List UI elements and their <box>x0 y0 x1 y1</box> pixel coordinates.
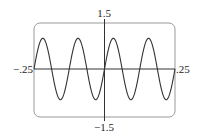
y-tick-label-max: 1.5 <box>97 7 111 19</box>
y-tick-label-min: −1.5 <box>94 121 114 133</box>
x-tick-label-min: −.25 <box>13 63 33 75</box>
x-tick-label-max: .25 <box>176 63 190 75</box>
chart: 1.5 −1.5 −.25 .25 <box>0 0 198 136</box>
